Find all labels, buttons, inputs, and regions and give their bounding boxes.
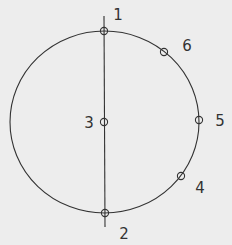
point-label-3: 3 — [84, 114, 94, 132]
point-marker-6 — [160, 48, 167, 55]
point-label-5: 5 — [215, 112, 225, 130]
vertical-axis-line — [104, 16, 105, 227]
point-label-2: 2 — [119, 225, 129, 243]
circle-diagram: 123456 — [0, 0, 232, 245]
point-label-4: 4 — [195, 179, 205, 197]
point-label-1: 1 — [113, 6, 123, 24]
point-label-6: 6 — [182, 37, 192, 55]
